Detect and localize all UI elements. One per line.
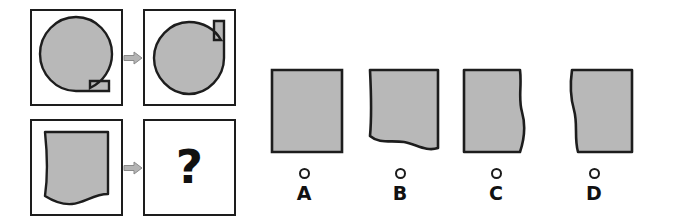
option-c-label: C	[460, 184, 532, 203]
option-b[interactable]: B	[364, 60, 452, 210]
square-with-wavy-left-icon	[558, 60, 638, 160]
option-c-shape[interactable]	[460, 60, 540, 160]
option-c-radio[interactable]	[491, 168, 502, 179]
option-b-radio[interactable]	[395, 168, 406, 179]
answer-options: A B C	[262, 60, 672, 210]
analogy-matrix: ?	[30, 9, 252, 216]
option-a[interactable]: A	[268, 60, 356, 210]
matrix-cell-target-question: ?	[143, 119, 236, 216]
option-a-radio[interactable]	[299, 168, 310, 179]
option-a-shape[interactable]	[268, 60, 348, 160]
option-d-radio[interactable]	[589, 168, 600, 179]
plain-square-icon	[268, 60, 348, 160]
square-with-wavy-right-icon	[460, 60, 540, 160]
matrix-cell-source-example	[30, 9, 123, 106]
puzzle-stage: ? A B	[0, 0, 675, 224]
option-b-label: B	[364, 184, 436, 203]
matrix-cell-target-example	[143, 9, 236, 106]
square-with-wavy-bottom-icon	[32, 121, 121, 214]
square-with-wavy-bottom-icon	[364, 60, 444, 160]
option-b-shape[interactable]	[364, 60, 444, 160]
circle-with-bottom-right-tab-icon	[32, 11, 121, 104]
transform-arrow-icon-row1	[122, 50, 144, 66]
transform-arrow-icon-row2	[122, 160, 144, 176]
option-a-label: A	[268, 184, 340, 203]
question-mark: ?	[145, 121, 234, 214]
option-d-shape[interactable]	[558, 60, 638, 160]
option-d[interactable]: D	[558, 60, 646, 210]
circle-with-top-right-tab-icon	[145, 11, 234, 104]
matrix-cell-source-question	[30, 119, 123, 216]
option-c[interactable]: C	[460, 60, 548, 210]
option-d-label: D	[558, 184, 630, 203]
